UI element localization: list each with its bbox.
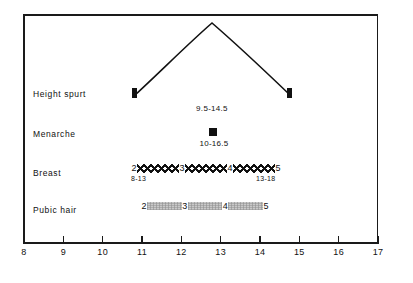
menarche-range-label: 10-16.5	[199, 139, 228, 148]
x-axis-tick-label: 8	[21, 247, 26, 257]
breast-stage-5: 5	[275, 164, 281, 173]
breast-left-range-label: 8-13	[131, 175, 146, 182]
x-axis-tick	[181, 236, 183, 243]
x-axis-line	[23, 242, 379, 244]
x-axis-tick-label: 10	[97, 247, 108, 257]
pubic-hair-segment-4-5	[228, 202, 263, 210]
breast-segment-3-4	[185, 164, 227, 173]
x-axis-tick	[220, 236, 222, 243]
x-axis-tick	[102, 236, 104, 243]
height-spurt-end-marker	[287, 88, 292, 98]
menarche-marker	[209, 128, 217, 136]
breast-stage-row: 2 3 4 5	[131, 162, 281, 174]
breast-segment-4-5	[233, 164, 275, 173]
row-label-breast: Breast	[33, 168, 61, 178]
x-axis-tick-label: 12	[176, 247, 187, 257]
pubic-hair-stage-row: 2 3 4 5	[141, 200, 269, 212]
pubic-hair-stage-5: 5	[263, 202, 269, 211]
x-axis-tick	[299, 236, 301, 243]
row-label-menarche: Menarche	[33, 129, 76, 139]
x-axis-tick-label: 13	[215, 247, 226, 257]
x-axis-tick-label: 11	[137, 247, 147, 257]
x-axis-tick-label: 15	[294, 247, 305, 257]
x-axis-tick	[259, 236, 261, 243]
x-axis-tick	[23, 236, 25, 243]
x-axis-tick	[377, 236, 379, 243]
tanner-stages-chart: Height spurt 9.5-14.5 Menarche 10-16.5 B…	[0, 0, 413, 283]
row-label-height-spurt: Height spurt	[33, 89, 86, 99]
breast-right-range-label: 13-18	[256, 175, 275, 182]
pubic-hair-segment-2-3	[147, 202, 182, 210]
x-axis-tick	[63, 236, 65, 243]
pubic-hair-segment-3-4	[188, 202, 223, 210]
height-spurt-range-label: 9.5-14.5	[196, 104, 228, 113]
height-spurt-start-marker	[132, 88, 137, 98]
row-label-pubic-hair: Pubic hair	[33, 205, 77, 215]
breast-segment-2-3	[137, 164, 179, 173]
x-axis-tick	[141, 236, 143, 243]
x-axis-tick-label: 14	[255, 247, 266, 257]
x-axis-tick-label: 9	[61, 247, 66, 257]
x-axis-tick	[338, 236, 340, 243]
x-axis-tick-label: 17	[373, 247, 384, 257]
x-axis-tick-label: 16	[333, 247, 344, 257]
